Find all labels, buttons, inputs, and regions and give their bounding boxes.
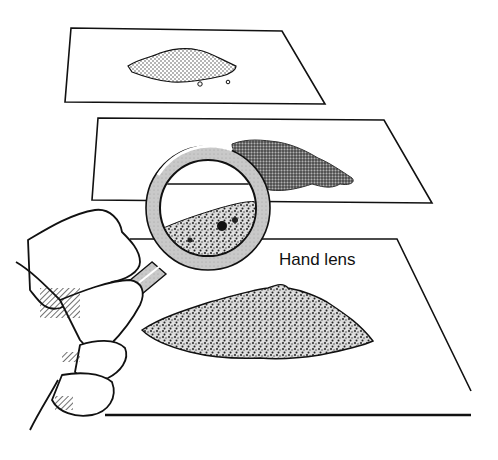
bottom-sample — [142, 285, 373, 359]
top-sheet — [65, 28, 325, 104]
illustration: Hand lens — [0, 0, 498, 460]
hand — [16, 210, 143, 430]
hand-lens-label: Hand lens — [279, 250, 356, 270]
hand-lens — [146, 146, 270, 270]
